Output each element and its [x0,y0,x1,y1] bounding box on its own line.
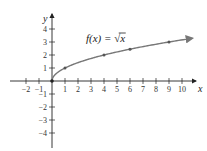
x-tick-label: 3 [89,85,93,94]
function-lhs: f(x) = [86,32,114,45]
x-tick-label: 7 [141,85,145,94]
chart: −2−112345678910 −4−3−2−11234 x y f(x) = … [0,0,207,151]
y-tick-label: 1 [43,64,47,73]
data-point [64,67,67,70]
sqrt-curve [52,38,192,81]
x-tick-label: 2 [76,85,80,94]
x-tick-label: 8 [154,85,158,94]
data-point [50,79,54,83]
data-point [103,54,106,57]
y-tick-label: −4 [38,129,47,138]
x-tick-label: 10 [178,85,186,94]
function-label: f(x) = √x [86,32,125,45]
y-tick-label: −3 [38,116,47,125]
x-tick-label: 1 [63,85,67,94]
curve-path [52,38,192,81]
x-tick-label: 5 [115,85,119,94]
data-point [168,41,171,44]
x-tick-label: −2 [22,85,31,94]
y-tick-label: −2 [38,103,47,112]
x-axis-label: x [197,83,203,94]
marked-points [50,41,170,83]
y-tick-label: 4 [43,25,47,34]
x-tick-label: 4 [102,85,106,94]
y-axis-label: y [42,13,48,24]
function-radicand: x [119,32,125,44]
x-tick-label: 9 [167,85,171,94]
y-tick-label: 2 [43,51,47,60]
y-tick-label: −1 [38,90,47,99]
data-point [129,48,132,51]
y-tick-label: 3 [43,38,47,47]
x-tick-label: 6 [128,85,132,94]
